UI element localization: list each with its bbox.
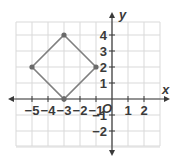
- x-axis-arrow-left-icon: [8, 96, 14, 102]
- y-tick-label: 3: [100, 44, 107, 59]
- x-tick-label: −4: [41, 103, 57, 118]
- x-tick-label: −2: [73, 103, 88, 118]
- vertex-point: [61, 32, 66, 37]
- y-axis-arrow-up-icon: [109, 12, 115, 18]
- y-tick-label: 4: [100, 28, 108, 43]
- y-axis-label: y: [118, 7, 127, 22]
- y-tick-label: −2: [92, 124, 107, 139]
- x-axis-label: x: [161, 82, 170, 97]
- grid-lines: [16, 22, 160, 147]
- x-tick-label: −3: [57, 103, 72, 118]
- vertex-point: [61, 96, 66, 101]
- vertex-point: [29, 64, 34, 69]
- coordinate-plane: −5−4−3−2−1124321−1−2 x y O: [0, 0, 180, 165]
- y-axis-arrow-down-icon: [109, 150, 115, 156]
- x-tick-label: 1: [124, 103, 131, 118]
- y-tick-label: 2: [100, 60, 107, 75]
- x-tick-label: 2: [140, 103, 147, 118]
- x-tick-label: −5: [25, 103, 40, 118]
- y-tick-label: 1: [100, 76, 107, 91]
- origin-label: O: [102, 101, 112, 116]
- vertex-point: [93, 64, 98, 69]
